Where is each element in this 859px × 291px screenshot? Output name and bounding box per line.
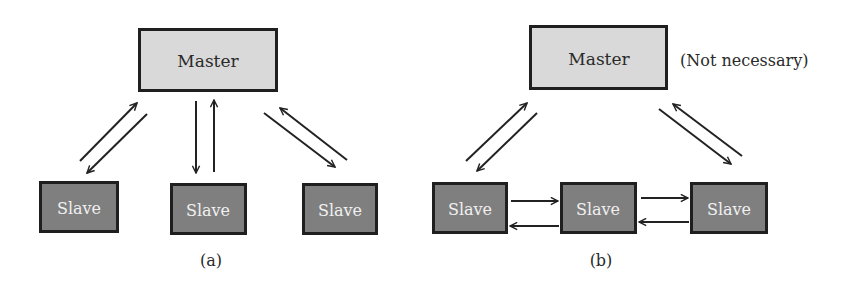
arrow-pair-slave3-master: [659, 104, 742, 164]
arrow-pair-slave1-master: [466, 103, 537, 171]
slave-node-1: Slave: [434, 184, 507, 233]
slave-node-2: Slave: [562, 184, 636, 233]
arrow-pair-slave2-master: [196, 100, 214, 173]
diagram-a: Master Slave Slave Slave (a): [41, 30, 377, 271]
master-node: Master: [140, 30, 277, 91]
slave-label: Slave: [707, 200, 751, 219]
arrow-pair-slave3-master: [264, 108, 347, 167]
caption-b: (b): [590, 251, 613, 270]
arrow-pair-slave1-master: [80, 103, 147, 173]
slave-label: Slave: [576, 200, 620, 219]
caption-a: (a): [200, 251, 222, 270]
master-note: (Not necessary): [680, 51, 808, 70]
slave-node-1: Slave: [41, 183, 118, 232]
master-label: Master: [568, 49, 630, 69]
slave-node-2: Slave: [172, 185, 246, 234]
slave-node-3: Slave: [692, 184, 767, 233]
diagram-b: Master (Not necessary) Slave Slave Slave: [434, 27, 809, 271]
master-label: Master: [177, 51, 239, 71]
slave-label: Slave: [186, 201, 230, 220]
arrow-pair-slave2-slave3: [639, 198, 689, 222]
slave-label: Slave: [448, 200, 492, 219]
slave-node-3: Slave: [304, 185, 377, 234]
arrow-pair-slave1-slave2: [510, 201, 559, 226]
arrow-down-icon: [264, 113, 335, 167]
slave-label: Slave: [318, 201, 362, 220]
slave-label: Slave: [57, 199, 101, 218]
master-slave-diagrams: Master Slave Slave Slave (a): [0, 0, 859, 291]
arrow-down-icon: [659, 109, 731, 164]
arrow-up-icon: [673, 104, 742, 156]
master-node: Master: [531, 27, 667, 89]
